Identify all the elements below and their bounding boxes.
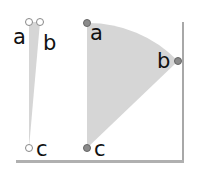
left-label-b: b (43, 31, 56, 55)
sector-diagram: a b c a b c (0, 0, 201, 173)
left-label-c: c (36, 137, 48, 161)
frame-right-edge (182, 22, 184, 162)
right-label-a: a (90, 21, 103, 45)
left-label-a: a (13, 25, 26, 49)
left-point-c (26, 145, 33, 152)
left-point-a (26, 19, 33, 26)
right-point-b (175, 58, 182, 65)
right-point-c (84, 145, 91, 152)
left-point-b (37, 19, 44, 26)
right-label-c: c (94, 137, 106, 161)
left-sector-shape (29, 22, 40, 148)
right-label-b: b (157, 49, 170, 73)
